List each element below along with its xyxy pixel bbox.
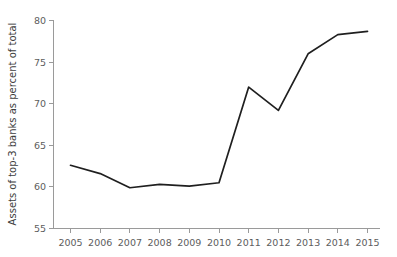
y-tick-label: 60 (34, 181, 46, 192)
x-tick-label: 2006 (88, 237, 112, 248)
chart-canvas: Assets of top-3 banks as percent of tota… (0, 0, 397, 257)
y-tick-label: 80 (34, 15, 46, 26)
x-tick-label: 2010 (207, 237, 231, 248)
x-tick-label: 2011 (237, 237, 261, 248)
x-tick-label: 2007 (118, 237, 142, 248)
x-tick-label: 2009 (177, 237, 201, 248)
y-tick-label: 55 (34, 223, 46, 234)
x-tick-label: 2013 (296, 237, 320, 248)
y-tick-label: 65 (34, 140, 46, 151)
x-tick-label: 2015 (355, 237, 379, 248)
x-tick-label: 2005 (58, 237, 82, 248)
x-tick-label: 2014 (326, 237, 350, 248)
x-tick-label: 2008 (148, 237, 172, 248)
chart-background (0, 0, 397, 257)
y-tick-label: 75 (34, 57, 46, 68)
line-chart: Assets of top-3 banks as percent of tota… (0, 0, 397, 257)
y-axis-title: Assets of top-3 banks as percent of tota… (7, 23, 18, 226)
y-tick-label: 70 (34, 98, 46, 109)
x-tick-label: 2012 (266, 237, 290, 248)
